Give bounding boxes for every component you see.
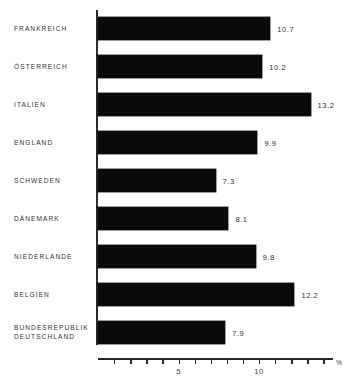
bar-row: NIEDERLANDE9.8	[0, 238, 351, 276]
bar-wrapper	[98, 131, 257, 154]
category-label: DÄNEMARK	[14, 215, 92, 224]
x-tick	[130, 360, 131, 364]
bar	[98, 169, 216, 192]
x-tick-label: 10	[254, 367, 263, 376]
category-label: BELGIEN	[14, 291, 92, 300]
bar-row: FRANKREICH10.7	[0, 10, 351, 48]
x-tick	[243, 360, 244, 364]
bar-row: DÄNEMARK8.1	[0, 200, 351, 238]
bar-value-label: 8.1	[235, 215, 247, 224]
x-tick	[323, 360, 324, 364]
x-axis: 510 %	[0, 352, 351, 386]
x-tick	[275, 360, 276, 364]
bar-row: BELGIEN12.2	[0, 276, 351, 314]
category-label: FRANKREICH	[14, 25, 92, 34]
plot-area: FRANKREICH10.7ÖSTERREICH10.2ITALIEN13.2E…	[0, 0, 351, 348]
bar-wrapper	[98, 207, 228, 230]
bar-value-label: 7.9	[232, 329, 244, 338]
bar-wrapper	[98, 321, 225, 344]
bar	[98, 207, 228, 230]
bar	[98, 93, 311, 116]
bar	[98, 283, 294, 306]
x-tick	[195, 360, 196, 364]
bar-value-label: 10.2	[269, 63, 286, 72]
x-tick	[307, 360, 308, 364]
bar-row: SCHWEDEN7.3	[0, 162, 351, 200]
x-tick	[162, 360, 163, 364]
category-label: ÖSTERREICH	[14, 63, 92, 72]
bar-row: ÖSTERREICH10.2	[0, 48, 351, 86]
bar-value-label: 12.2	[301, 291, 318, 300]
x-tick	[179, 360, 180, 364]
bar-value-label: 10.7	[277, 25, 294, 34]
category-label: ITALIEN	[14, 101, 92, 110]
bar-row: ENGLAND9.9	[0, 124, 351, 162]
bar-wrapper	[98, 55, 262, 78]
bar-row: BUNDESREPUBLIK DEUTSCHLAND7.9	[0, 314, 351, 352]
bar-wrapper	[98, 283, 294, 306]
bar-chart: FRANKREICH10.7ÖSTERREICH10.2ITALIEN13.2E…	[0, 0, 351, 386]
bar-wrapper	[98, 169, 216, 192]
x-tick	[146, 360, 147, 364]
x-axis-unit-label: %	[336, 359, 342, 366]
bar-wrapper	[98, 93, 311, 116]
x-tick	[291, 360, 292, 364]
bar-value-label: 9.9	[264, 139, 276, 148]
x-tick	[227, 360, 228, 364]
bar-value-label: 7.3	[223, 177, 235, 186]
bar	[98, 321, 225, 344]
bar-wrapper	[98, 245, 256, 268]
x-tick	[211, 360, 212, 364]
x-tick-label: 5	[176, 367, 181, 376]
category-label: SCHWEDEN	[14, 177, 92, 186]
bar	[98, 17, 270, 40]
category-label: NIEDERLANDE	[14, 253, 92, 262]
bar	[98, 245, 256, 268]
x-axis-line	[98, 358, 333, 360]
bar-value-label: 9.8	[263, 253, 275, 262]
bar-wrapper	[98, 17, 270, 40]
bar	[98, 55, 262, 78]
bar-value-label: 13.2	[318, 101, 335, 110]
category-label: BUNDESREPUBLIK DEUTSCHLAND	[14, 324, 92, 341]
bar-row: ITALIEN13.2	[0, 86, 351, 124]
x-tick	[259, 360, 260, 364]
x-tick	[114, 360, 115, 364]
category-label: ENGLAND	[14, 139, 92, 148]
bar	[98, 131, 257, 154]
